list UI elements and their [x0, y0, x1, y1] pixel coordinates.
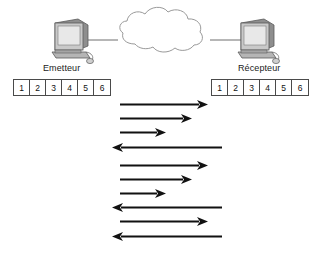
message-row	[0, 187, 327, 200]
send-arrow	[120, 187, 166, 200]
sliding-window-protocol-diagram: Emetteur Récepteur 123456 123456	[0, 0, 327, 258]
send-arrow	[120, 159, 208, 172]
ack-arrow	[112, 230, 222, 243]
ack-arrow	[112, 201, 222, 214]
message-row	[0, 98, 327, 111]
send-arrow	[120, 126, 166, 139]
message-row	[0, 159, 327, 172]
message-row	[0, 173, 327, 186]
ack-arrow	[112, 141, 222, 154]
message-row	[0, 230, 327, 243]
message-row	[0, 201, 327, 214]
send-arrow	[120, 215, 208, 228]
message-exchange-list	[0, 0, 327, 258]
message-row	[0, 126, 327, 139]
message-row	[0, 215, 327, 228]
message-row	[0, 141, 327, 154]
send-arrow	[120, 173, 192, 186]
send-arrow	[120, 98, 208, 111]
send-arrow	[120, 112, 192, 125]
message-row	[0, 112, 327, 125]
